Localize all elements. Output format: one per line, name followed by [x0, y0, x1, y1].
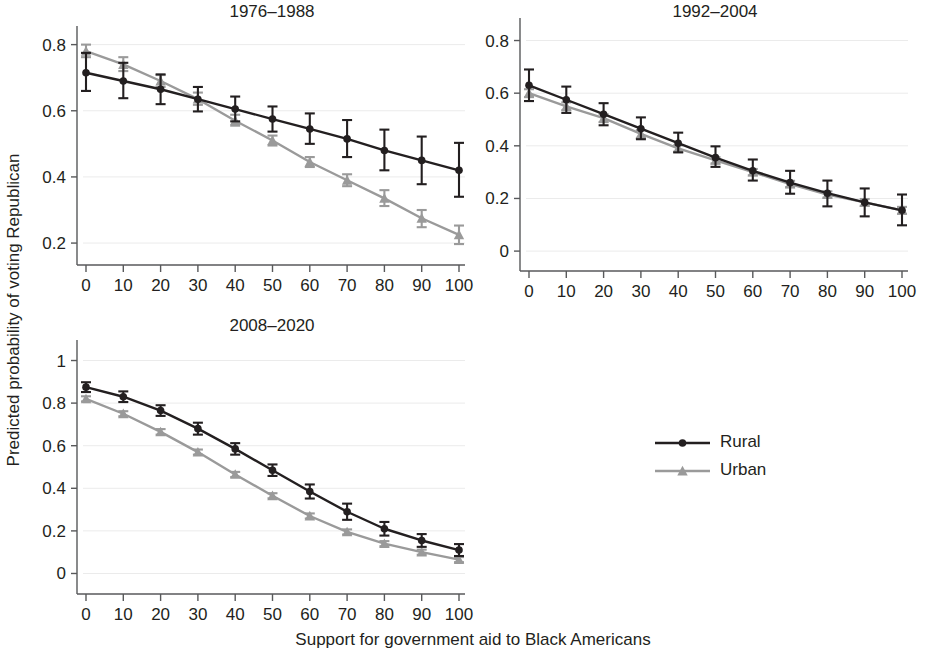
y-tick-label: 0.6 — [42, 437, 66, 456]
x-tick-label: 0 — [524, 282, 533, 301]
data-point-circle — [120, 77, 128, 85]
y-tick-label: 0 — [500, 242, 509, 261]
data-point-circle — [600, 110, 608, 118]
y-tick-label: 0.2 — [485, 189, 509, 208]
y-tick-label: 0.2 — [42, 234, 66, 253]
x-tick-label: 70 — [781, 282, 800, 301]
y-tick-label: 0.4 — [42, 479, 66, 498]
data-point-circle — [898, 207, 906, 215]
y-tick-label: 0.2 — [42, 522, 66, 541]
data-point-circle — [306, 125, 314, 133]
x-tick-label: 50 — [263, 605, 282, 624]
y-tick-label: 0.8 — [485, 32, 509, 51]
panel-title: 2008–2020 — [229, 316, 314, 335]
x-tick-label: 50 — [706, 282, 725, 301]
data-point-circle — [343, 135, 351, 143]
data-point-circle — [455, 546, 463, 554]
x-tick-label: 100 — [888, 282, 916, 301]
data-point-circle — [861, 199, 869, 207]
data-point-circle — [786, 179, 794, 187]
x-tick-label: 10 — [114, 605, 133, 624]
data-point-circle — [269, 115, 277, 123]
x-tick-label: 0 — [81, 605, 90, 624]
x-tick-label: 90 — [412, 605, 431, 624]
y-tick-label: 0.8 — [42, 394, 66, 413]
x-tick-label: 40 — [226, 276, 245, 295]
data-point-circle — [194, 95, 202, 103]
x-tick-label: 100 — [445, 605, 473, 624]
data-point-circle — [306, 488, 314, 496]
data-point-circle — [824, 189, 832, 197]
x-tick-label: 40 — [669, 282, 688, 301]
data-point-circle — [749, 167, 757, 175]
data-point-circle — [343, 508, 351, 516]
y-tick-label: 0.4 — [485, 137, 509, 156]
data-point-circle — [455, 167, 463, 175]
data-point-circle — [712, 154, 720, 162]
data-point-circle — [418, 157, 426, 165]
x-tick-label: 80 — [375, 276, 394, 295]
chart-svg: 1976–19880.20.40.60.80102030405060708090… — [0, 0, 925, 655]
x-tick-label: 60 — [300, 605, 319, 624]
x-tick-label: 50 — [263, 276, 282, 295]
x-tick-label: 30 — [188, 605, 207, 624]
x-tick-label: 60 — [743, 282, 762, 301]
x-tick-label: 80 — [375, 605, 394, 624]
x-tick-label: 90 — [412, 276, 431, 295]
x-tick-label: 60 — [300, 276, 319, 295]
data-point-circle — [231, 445, 239, 453]
x-tick-label: 70 — [338, 276, 357, 295]
data-point-circle — [82, 383, 90, 391]
y-tick-label: 0.6 — [42, 102, 66, 121]
data-point-circle — [418, 537, 426, 545]
data-point-circle — [120, 393, 128, 401]
x-tick-label: 80 — [818, 282, 837, 301]
y-tick-label: 1 — [57, 352, 66, 371]
x-tick-label: 20 — [594, 282, 613, 301]
x-tick-label: 20 — [151, 605, 170, 624]
data-point-circle — [157, 85, 165, 93]
x-tick-label: 70 — [338, 605, 357, 624]
data-point-circle — [157, 407, 165, 415]
panel-title: 1992–2004 — [672, 2, 757, 21]
legend-label: Urban — [720, 460, 766, 479]
data-point-circle — [674, 139, 682, 147]
x-tick-label: 10 — [557, 282, 576, 301]
x-axis-title: Support for government aid to Black Amer… — [295, 630, 650, 649]
x-tick-label: 40 — [226, 605, 245, 624]
x-tick-label: 30 — [631, 282, 650, 301]
legend-marker-circle — [679, 439, 687, 447]
y-tick-label: 0.4 — [42, 168, 66, 187]
x-tick-label: 30 — [188, 276, 207, 295]
data-point-circle — [269, 466, 277, 474]
y-tick-label: 0.8 — [42, 36, 66, 55]
panel-title: 1976–1988 — [229, 2, 314, 21]
y-axis-title: Predicted probability of voting Republic… — [4, 154, 23, 467]
data-point-circle — [563, 96, 571, 104]
data-point-circle — [637, 125, 645, 133]
legend-label: Rural — [720, 432, 761, 451]
x-tick-label: 90 — [855, 282, 874, 301]
data-point-circle — [381, 525, 389, 533]
y-tick-label: 0 — [57, 564, 66, 583]
data-point-circle — [525, 81, 533, 89]
x-tick-label: 20 — [151, 276, 170, 295]
x-tick-label: 0 — [81, 276, 90, 295]
y-tick-label: 0.6 — [485, 84, 509, 103]
x-tick-label: 10 — [114, 276, 133, 295]
data-point-circle — [82, 69, 90, 77]
figure-container: 1976–19880.20.40.60.80102030405060708090… — [0, 0, 925, 655]
x-tick-label: 100 — [445, 276, 473, 295]
data-point-circle — [381, 147, 389, 155]
data-point-circle — [194, 425, 202, 433]
data-point-circle — [231, 105, 239, 113]
